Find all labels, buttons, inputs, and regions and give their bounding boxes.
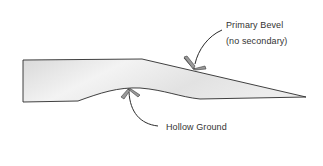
hollow-ground-arrow-shaft (129, 92, 158, 126)
primary-bevel-note: (no secondary) (226, 36, 287, 47)
primary-bevel-arrow-shaft (195, 30, 222, 64)
primary-bevel-label: Primary Bevel (226, 20, 283, 31)
blade-profile (23, 59, 306, 102)
hollow-ground-label: Hollow Ground (166, 122, 227, 133)
hollow-ground-arrowhead-icon (121, 89, 140, 99)
